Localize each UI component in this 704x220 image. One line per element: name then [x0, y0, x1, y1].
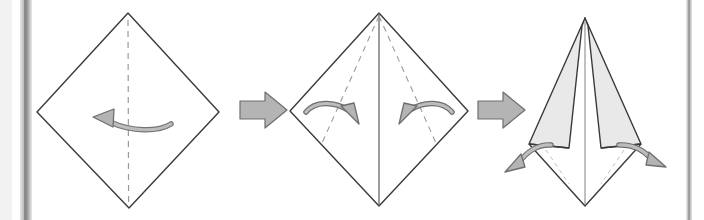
origami-diagram-page	[0, 0, 704, 220]
step-1-vertical-center-crease	[128, 20, 129, 202]
origami-instruction-diagram	[0, 0, 704, 220]
right-page-edge	[686, 0, 692, 220]
